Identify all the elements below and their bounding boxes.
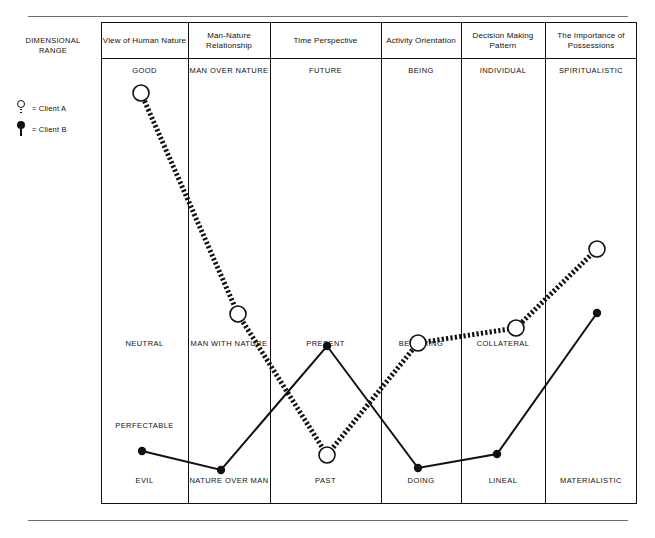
column-header-1: Man-Nature Relationship bbox=[188, 26, 270, 56]
tier-label-high-1: MAN OVER NATURE bbox=[188, 66, 270, 75]
column-divider-3 bbox=[381, 22, 382, 504]
top-rule bbox=[28, 16, 628, 17]
tier-label-low-3: DOING bbox=[381, 476, 461, 485]
legend-label-client-b: = Client B bbox=[32, 125, 67, 134]
column-header-5: The Importance of Possessions bbox=[545, 26, 637, 56]
column-divider-4 bbox=[461, 22, 462, 504]
legend-label-client-a: = Client A bbox=[32, 104, 66, 113]
tier-label-middle-0: NEUTRAL bbox=[101, 339, 188, 348]
tier-label-low-5: MATERIALISTIC bbox=[545, 476, 637, 485]
tier-label-middle-2: PRESENT bbox=[270, 339, 381, 348]
legend: = Client A = Client B bbox=[14, 98, 98, 140]
dimensional-range-block: DIMENSIONAL RANGE bbox=[14, 36, 94, 56]
tier-label-high-3: BEING bbox=[381, 66, 461, 75]
tier-label-low-2: PAST bbox=[270, 476, 381, 485]
legend-item-client-b: = Client B bbox=[14, 119, 98, 140]
tier-label-low-4: LINEAL bbox=[461, 476, 545, 485]
tier-label-low-0: EVIL bbox=[101, 476, 188, 485]
dimensional-range-label: DIMENSIONAL RANGE bbox=[14, 36, 92, 56]
tier-label-middle-1: MAN WITH NATURE bbox=[188, 339, 270, 348]
tier-label-middle-3: BECOMING bbox=[381, 339, 461, 348]
tier-label-low_mid-0: PERFECTABLE bbox=[101, 421, 188, 430]
legend-item-client-a: = Client A bbox=[14, 98, 98, 119]
tier-label-middle-4: COLLATERAL bbox=[461, 339, 545, 348]
column-divider-1 bbox=[188, 22, 189, 504]
column-header-2: Time Perspective bbox=[270, 26, 381, 56]
chart-frame bbox=[101, 22, 637, 504]
column-header-4: Decision Making Pattern bbox=[461, 26, 545, 56]
tier-label-low-1: NATURE OVER MAN bbox=[188, 476, 270, 485]
column-divider-2 bbox=[270, 22, 271, 504]
column-header-3: Activity Orientation bbox=[381, 26, 461, 56]
bottom-rule bbox=[28, 520, 628, 521]
header-separator bbox=[101, 58, 637, 59]
column-header-0: View of Human Nature bbox=[101, 26, 188, 56]
tier-label-high-4: INDIVIDUAL bbox=[461, 66, 545, 75]
filled-circle-solid-icon bbox=[14, 120, 30, 140]
tier-label-high-5: SPIRITUALISTIC bbox=[545, 66, 637, 75]
open-circle-dotted-icon bbox=[14, 99, 30, 119]
tier-label-high-0: GOOD bbox=[101, 66, 188, 75]
tier-label-high-2: FUTURE bbox=[270, 66, 381, 75]
column-divider-5 bbox=[545, 22, 546, 504]
